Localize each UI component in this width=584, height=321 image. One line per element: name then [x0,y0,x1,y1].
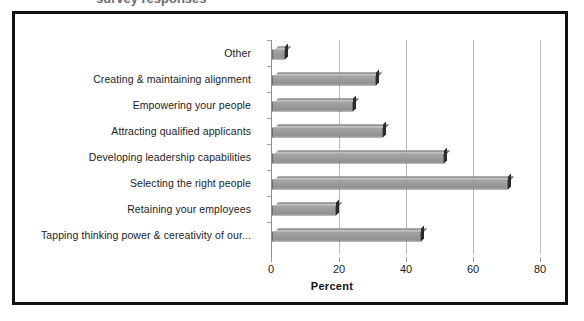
bar-side [383,122,386,138]
bar-row: Tapping thinking power & cereativity of … [15,222,565,248]
x-tick-label-20: 20 [333,263,345,275]
bar-side [421,226,424,242]
bar-chart-plot-area: Other Creating & maintaining alignment E… [15,14,565,302]
scan-top-text-fragment: survey responses [0,0,584,9]
x-tick-40 [406,257,407,262]
category-label: Empowering your people [133,99,251,111]
category-tick [267,40,271,41]
bar-face [272,232,421,242]
category-tick [267,66,271,67]
x-tick-label-80: 80 [534,263,546,275]
bar-top [275,151,450,154]
category-label: Creating & maintaining alignment [93,73,251,85]
bar-top [275,73,382,76]
bar-row: Retaining your employees [15,196,565,222]
category-label: Developing leadership capabilities [89,151,251,163]
bar-row: Developing leadership capabilities [15,144,565,170]
category-label: Other [224,47,251,59]
category-tick [267,118,271,119]
bar-top [275,177,514,180]
bar-top [275,47,291,50]
x-axis-title: Percent [15,280,565,292]
chart-frame: Other Creating & maintaining alignment E… [12,11,568,305]
x-tick-label-40: 40 [400,263,412,275]
bar-face [272,154,444,164]
category-tick [267,144,271,145]
bar-row: Selecting the right people [15,170,565,196]
bar-row: Attracting qualified applicants [15,118,565,144]
bar-row: Creating & maintaining alignment [15,66,565,92]
bar-top [275,203,342,206]
x-tick-label-0: 0 [268,263,274,275]
bar-row: Other [15,40,565,66]
scan-top-text-fragment-label: survey responses [96,0,207,6]
x-axis-title-label: Percent [311,280,353,292]
bar-side [285,44,288,60]
bar-top [275,229,427,232]
category-tick [267,92,271,93]
x-tick-20 [339,257,340,262]
x-tick-label-60: 60 [467,263,479,275]
bar-top [275,125,389,128]
category-tick [267,222,271,223]
x-tick-60 [473,257,474,262]
bar-top [275,99,359,102]
bar-face [272,102,353,112]
category-tick [267,196,271,197]
x-tick-80 [540,257,541,262]
category-label: Tapping thinking power & cereativity of … [41,229,251,241]
category-label: Selecting the right people [130,177,251,189]
bar-side [336,200,339,216]
category-label: Attracting qualified applicants [111,125,251,137]
bar-side [444,148,447,164]
bar-face [272,50,285,60]
bar-face [272,128,383,138]
bar-face [272,76,376,86]
bar-row: Empowering your people [15,92,565,118]
bar-side [353,96,356,112]
bar-side [376,70,379,86]
x-tick-0 [271,257,272,262]
bar-side [508,174,511,190]
category-tick [267,170,271,171]
bar-face [272,180,508,190]
category-label: Retaining your employees [127,203,251,215]
bar-face [272,206,336,216]
